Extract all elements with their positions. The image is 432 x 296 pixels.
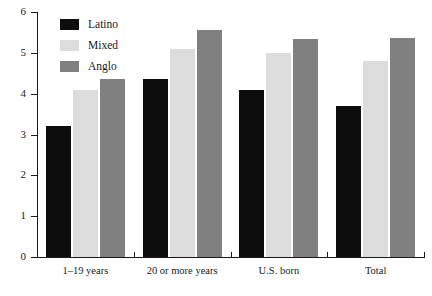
bar-mixed-2 bbox=[266, 53, 291, 257]
bar-latino-3 bbox=[336, 106, 361, 257]
x-axis-category-label: Total bbox=[327, 265, 424, 277]
latino-swatch bbox=[60, 19, 79, 30]
y-tick-label: 2 bbox=[0, 169, 26, 180]
y-tick-label: 4 bbox=[0, 88, 26, 99]
bar-latino-2 bbox=[239, 90, 264, 257]
bar-anglo-0 bbox=[100, 79, 125, 257]
bar-chart: 0123456 1–19 years20 or more yearsU.S. b… bbox=[0, 0, 432, 296]
x-axis-category-label: U.S. born bbox=[231, 265, 328, 277]
x-tick-mark bbox=[424, 252, 425, 258]
chart-legend: LatinoMixedAnglo bbox=[60, 14, 118, 77]
x-axis-category-label: 20 or more years bbox=[134, 265, 231, 277]
bar-anglo-1 bbox=[197, 30, 222, 257]
x-axis-category-label: 1–19 years bbox=[37, 265, 134, 277]
bar-latino-1 bbox=[143, 79, 168, 257]
bar-anglo-3 bbox=[390, 38, 415, 257]
y-tick-label: 3 bbox=[0, 129, 26, 140]
bar-mixed-0 bbox=[73, 90, 98, 257]
bar-latino-0 bbox=[46, 126, 71, 257]
legend-item-latino: Latino bbox=[60, 14, 118, 34]
bar-mixed-1 bbox=[170, 49, 195, 257]
bar-anglo-2 bbox=[293, 39, 318, 257]
y-tick-label: 1 bbox=[0, 210, 26, 221]
anglo-swatch bbox=[60, 61, 79, 72]
legend-item-anglo: Anglo bbox=[60, 56, 118, 76]
legend-item-mixed: Mixed bbox=[60, 35, 118, 55]
y-tick-label: 6 bbox=[0, 6, 26, 17]
legend-label: Latino bbox=[88, 18, 118, 30]
bar-mixed-3 bbox=[363, 61, 388, 257]
y-tick-label: 5 bbox=[0, 47, 26, 58]
legend-label: Mixed bbox=[88, 39, 118, 51]
mixed-swatch bbox=[60, 40, 79, 51]
legend-label: Anglo bbox=[88, 60, 117, 72]
y-tick-label: 0 bbox=[0, 251, 26, 262]
